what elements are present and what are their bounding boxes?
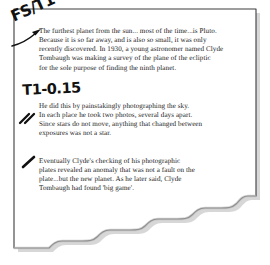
paragraph-photographic-method: He did this by painstakingly photographi… bbox=[39, 102, 257, 139]
page-content: The furthest planet from the sun... most… bbox=[0, 0, 270, 265]
scanned-page: The furthest planet from the sun... most… bbox=[0, 0, 270, 265]
paragraph-pluto-discovery: The furthest planet from the sun... most… bbox=[39, 27, 257, 73]
handwritten-code-mid: T1-0.15 bbox=[22, 79, 81, 98]
paragraph-big-game: Eventually Clyde's checking of his photo… bbox=[39, 157, 253, 194]
